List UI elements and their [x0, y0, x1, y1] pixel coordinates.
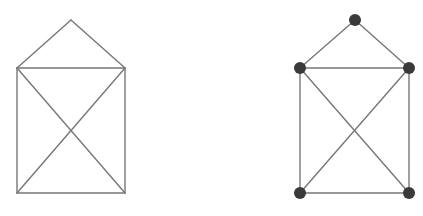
diagram-canvas	[0, 0, 423, 216]
vertex-bottom-right	[403, 187, 415, 199]
edge-apex-top-right	[71, 20, 125, 68]
house-graphs-diagram	[0, 0, 423, 216]
house-graph-with-vertices	[294, 14, 415, 199]
vertex-top-right	[403, 62, 415, 74]
vertex-top-left	[294, 62, 306, 74]
vertex-bottom-left	[294, 187, 306, 199]
house-graph-plain	[17, 20, 125, 193]
edge-apex-top-left	[17, 20, 71, 68]
edge-apex-top-right	[355, 20, 409, 68]
vertex-apex	[349, 14, 361, 26]
edge-apex-top-left	[300, 20, 355, 68]
